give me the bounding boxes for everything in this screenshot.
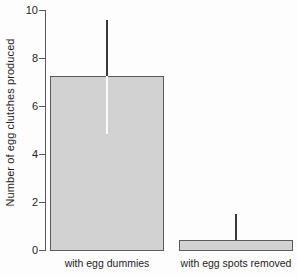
y-tick-label-8: 8 <box>0 53 38 64</box>
y-tick-label-4: 4 <box>0 149 38 160</box>
y-tick-mark-6 <box>39 106 45 107</box>
bar-chart-figure: Number of egg clutches produced 10 8 6 4… <box>0 0 298 277</box>
error-bar-upper-2 <box>235 214 237 240</box>
error-bar-lower-1 <box>106 76 108 134</box>
y-tick-label-6: 6 <box>0 101 38 112</box>
y-tick-mark-10 <box>39 10 45 11</box>
y-tick-label-10: 10 <box>0 5 38 16</box>
y-tick-mark-4 <box>39 154 45 155</box>
bar-with-egg-spots-removed <box>179 240 293 251</box>
y-axis-title: Number of egg clutches produced <box>1 0 19 261</box>
y-tick-mark-2 <box>39 202 45 203</box>
x-axis-label-category-1: with egg dummies <box>50 257 164 269</box>
error-bar-upper-1 <box>106 20 108 76</box>
y-tick-mark-8 <box>39 58 45 59</box>
x-axis-label-category-2: with egg spots removed <box>179 257 293 269</box>
y-axis-line <box>45 10 46 251</box>
y-tick-label-2: 2 <box>0 197 38 208</box>
y-tick-label-0: 0 <box>0 245 38 256</box>
y-tick-mark-0 <box>39 250 45 251</box>
